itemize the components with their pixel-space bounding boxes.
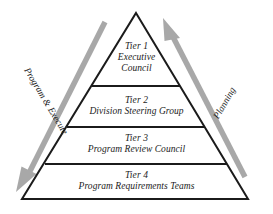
flow-right-arrowhead-icon: [163, 18, 180, 41]
pyramid-outline: [22, 13, 248, 199]
pyramid-graphic: [0, 0, 273, 214]
pyramid-diagram: Tier 1 Executive Council Tier 2 Division…: [0, 0, 273, 214]
